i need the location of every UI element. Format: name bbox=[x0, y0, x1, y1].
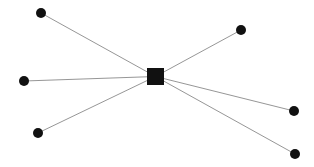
edge-hub-to-leaf-top-left bbox=[41, 13, 156, 77]
edge-hub-to-leaf-left bbox=[24, 77, 156, 82]
leaf-top-left-node bbox=[36, 8, 46, 18]
leaf-top-right-node bbox=[236, 25, 246, 35]
leaf-bottom-left-node bbox=[33, 128, 43, 138]
star-graph-diagram bbox=[0, 0, 314, 167]
edge-hub-to-leaf-top-right bbox=[156, 30, 242, 77]
edge-hub-to-leaf-right bbox=[156, 77, 295, 112]
edge-hub-to-leaf-bottom-left bbox=[38, 77, 156, 134]
leaf-right-node bbox=[289, 106, 299, 116]
edge-hub-to-leaf-bottom-right bbox=[156, 77, 296, 155]
hub-node bbox=[147, 68, 164, 85]
leaf-bottom-right-node bbox=[290, 149, 300, 159]
graph-canvas bbox=[0, 0, 314, 167]
leaf-left-node bbox=[19, 76, 29, 86]
nodes-group bbox=[19, 8, 300, 159]
